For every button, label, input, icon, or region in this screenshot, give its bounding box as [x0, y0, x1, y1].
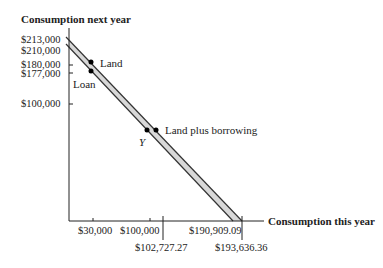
y-tick-label: $210,000: [21, 46, 60, 57]
y-tick-label: $177,000: [21, 69, 60, 80]
y-tick-label: $100,000: [21, 99, 60, 110]
label-y: Y: [139, 137, 145, 148]
y-tick-label: $213,000: [21, 35, 60, 46]
point-land-plus-borrowing: [154, 128, 159, 133]
x-tick-label: $102,727.27: [135, 243, 188, 254]
point-land: [89, 60, 94, 65]
point-loan: [89, 69, 94, 74]
label-loan: Loan: [73, 79, 96, 90]
label-land: Land: [100, 58, 123, 69]
label-land-plus-borrowing: Land plus borrowing: [165, 125, 257, 136]
point-y: [145, 128, 150, 133]
x-tick-label: $100,000: [120, 226, 159, 237]
x-tick-label: $193,636.36: [215, 243, 268, 254]
y-axis-title: Consumption next year: [21, 14, 131, 25]
x-axis-title: Consumption this year: [268, 216, 375, 227]
x-tick-label: $190,909.09: [189, 226, 242, 237]
x-tick-label: $30,000: [78, 226, 112, 237]
